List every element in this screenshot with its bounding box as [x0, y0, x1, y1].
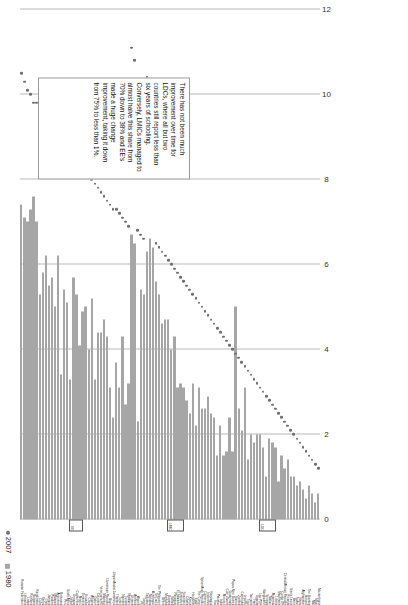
x-tick-label-0: 0 [324, 515, 328, 524]
x-tick-label-12: 12 [322, 5, 331, 14]
legend-item-2007: 2007 [4, 530, 13, 553]
group-label-ldc: LDC [260, 524, 264, 530]
x-tick-label-4: 4 [324, 345, 328, 354]
chart-legend: 19802007 [4, 0, 18, 605]
annotation-textbox: There has not been much improvement over… [38, 77, 190, 179]
rotated-figure-wrapper: 19802007 024681012EELMICLDC Russian Fede… [0, 0, 408, 605]
legend-swatch-icon [5, 563, 10, 568]
group-label-ee: EE [70, 526, 74, 530]
x-tick-label-6: 6 [324, 260, 328, 269]
x-tick-label-8: 8 [324, 175, 328, 184]
legend-label: 2007 [4, 536, 13, 553]
x-tick-label-10: 10 [322, 90, 331, 99]
group-label-lmic: LMIC [168, 522, 172, 530]
dot-2007 [317, 467, 320, 470]
x-tick-label-2: 2 [324, 430, 328, 439]
chart-figure: 19802007 024681012EELMICLDC Russian Fede… [2, 0, 342, 605]
chart-page: 19802007 024681012EELMICLDC Russian Fede… [0, 0, 408, 605]
legend-dot-icon [6, 530, 10, 534]
legend-label: 1980 [4, 570, 13, 587]
chart-row [317, 0, 320, 605]
legend-item-1980: 1980 [4, 563, 13, 587]
annotation-text: There has not been much improvement over… [91, 82, 186, 174]
bar-1980 [317, 494, 319, 520]
